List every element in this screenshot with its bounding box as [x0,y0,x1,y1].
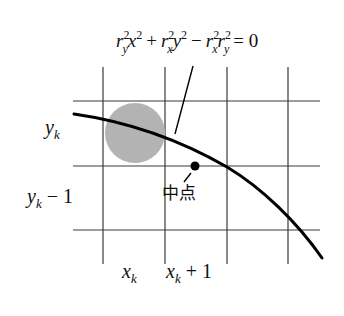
label-yk: yk [43,116,60,142]
midpoint-leader-line [184,173,191,182]
ellipse-equation: r2yx2+r2xy2−r2xr2y= 0 [116,28,258,56]
label-xk-plus-1: xk + 1 [165,260,212,286]
label-xk: xk [121,260,137,286]
label-midpoint: 中点 [162,183,196,203]
label-yk-minus-1: yk − 1 [25,185,73,211]
ellipse-midpoint-diagram: r2yx2+r2xy2−r2xr2y= 0 yk yk − 1 中点 xk xk… [0,0,344,316]
equation-leader-line [175,66,193,134]
midpoint-dot [191,162,200,171]
